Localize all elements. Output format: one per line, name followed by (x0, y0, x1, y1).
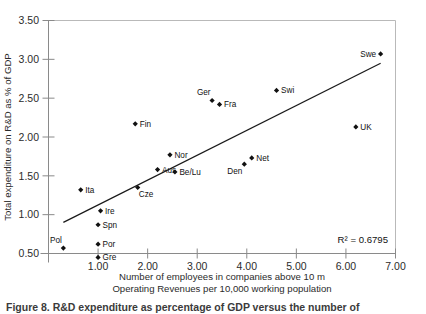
point-marker (209, 98, 214, 103)
point-marker (133, 121, 138, 126)
data-point: Por (95, 240, 115, 249)
data-point: Fra (217, 100, 237, 109)
point-marker (78, 187, 83, 192)
data-point: Ita (78, 186, 95, 195)
point-label: Net (256, 154, 269, 163)
point-marker (95, 222, 100, 227)
point-label: Por (103, 240, 116, 249)
point-marker (155, 167, 160, 172)
data-point: Net (249, 154, 270, 163)
x-axis: 1.002.003.004.005.006.007.00 (41, 249, 406, 273)
plot-frame (49, 21, 396, 254)
point-label: Be/Lu (179, 168, 201, 177)
point-marker (242, 162, 247, 167)
x-axis-title-line1: Number of employees in companies above 1… (119, 271, 325, 282)
data-point: Ire (98, 207, 115, 216)
point-marker (274, 88, 279, 93)
point-label: Pol (50, 236, 62, 245)
data-point: Pol (50, 236, 66, 251)
x-tick-label: 6.00 (336, 260, 357, 272)
y-axis-title: Total expenditure on R&D as % of GDP (2, 53, 13, 220)
y-tick-label: 2.50 (19, 92, 40, 104)
point-label: Fra (224, 100, 237, 109)
data-point: Den (227, 162, 247, 176)
point-marker (217, 102, 222, 107)
point-label: Cze (139, 190, 154, 199)
y-tick-label: 1.00 (19, 208, 40, 220)
point-label: UK (360, 123, 372, 132)
point-label: Spn (103, 221, 118, 230)
data-point: UK (353, 123, 372, 132)
point-label: Den (227, 167, 242, 176)
point-label: Nor (174, 151, 187, 160)
trend-line (63, 63, 380, 222)
y-tick-label: 1.50 (19, 170, 40, 182)
y-tick-label: 3.00 (19, 53, 40, 65)
data-point: Spn (95, 221, 117, 230)
y-axis: 0.501.001.502.002.503.003.50 (19, 14, 55, 262)
data-points-layer: PolItaGrePorSpnIreFinCzeAusNorBe/LuGerFr… (50, 50, 383, 262)
y-tick-label: 0.50 (19, 247, 40, 259)
x-axis-title-line2: Operating Revenues per 10,000 working po… (112, 283, 331, 294)
data-point: Ger (197, 88, 215, 103)
data-point: Aus (155, 166, 176, 175)
point-label: Ire (105, 207, 115, 216)
data-point: Swi (274, 86, 294, 95)
y-tick-label: 3.50 (19, 14, 40, 26)
point-marker (98, 208, 103, 213)
point-marker (61, 245, 66, 250)
point-label: Swe (360, 50, 376, 59)
point-label: Ger (197, 88, 211, 97)
figure-caption: Figure 8. R&D expenditure as percentage … (6, 301, 360, 313)
point-marker (249, 155, 254, 160)
y-tick-label: 2.00 (19, 131, 40, 143)
scatter-plot: 0.501.001.502.002.503.003.50 1.002.003.0… (0, 0, 426, 314)
point-marker (167, 152, 172, 157)
data-point: Fin (133, 120, 152, 129)
x-tick-label: 7.00 (385, 260, 406, 272)
point-marker (378, 51, 383, 56)
data-point: Nor (167, 151, 188, 160)
point-label: Swi (281, 86, 294, 95)
point-label: Ita (85, 186, 95, 195)
point-label: Gre (103, 253, 117, 262)
data-point: Swe (360, 50, 383, 59)
data-point: Be/Lu (172, 168, 201, 177)
y-axis-ticks: 0.501.001.502.002.503.003.50 (19, 14, 55, 259)
point-marker (353, 124, 358, 129)
data-point: Cze (135, 185, 154, 200)
r-squared-annotation: R² = 0.6795 (338, 234, 388, 245)
figure-container: 0.501.001.502.002.503.003.50 1.002.003.0… (0, 0, 426, 314)
point-marker (95, 242, 100, 247)
point-label: Fin (140, 120, 152, 129)
